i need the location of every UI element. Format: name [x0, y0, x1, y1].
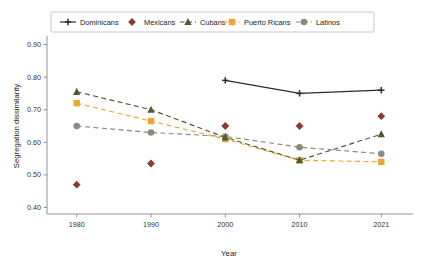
data-point-mexicans [73, 181, 81, 189]
data-point-mexicans [296, 122, 304, 130]
y-tick-label: 0.50 [27, 170, 41, 179]
chart-canvas: 0.400.500.600.700.800.901980199020002010… [0, 0, 425, 263]
data-point-mexicans [147, 160, 155, 168]
data-point-mexicans [377, 112, 385, 120]
legend-label-mexicans: Mexicans [144, 18, 176, 27]
y-tick-label: 0.70 [27, 105, 41, 114]
data-point-cubans [378, 130, 385, 137]
data-point-cubans [147, 106, 154, 113]
legend-label-latinos: Latinos [316, 18, 340, 27]
y-axis-title: Segregation dissimilarity [12, 84, 21, 169]
y-tick-label: 0.60 [27, 138, 41, 147]
data-point-cubans [73, 88, 80, 95]
data-point-puerto-ricans [378, 159, 384, 165]
series-latinos [73, 123, 384, 157]
data-point-latinos [378, 150, 385, 157]
data-point-dominicans [222, 77, 228, 83]
x-tick-label: 2000 [217, 220, 233, 229]
segregation-dissimilarity-chart: 0.400.500.600.700.800.901980199020002010… [0, 0, 425, 263]
data-point-latinos [73, 123, 80, 130]
x-tick-label: 2021 [373, 220, 389, 229]
data-point-latinos [148, 129, 155, 136]
data-point-latinos [296, 144, 303, 151]
data-point-dominicans [296, 90, 302, 96]
series-line-dominicans [225, 80, 381, 93]
y-tick-label: 0.80 [27, 73, 41, 82]
series-cubans [73, 88, 385, 164]
data-point-puerto-ricans [148, 118, 154, 124]
chart-legend: DominicansMexicansCubansPuerto RicansLat… [51, 12, 374, 32]
data-point-puerto-ricans [74, 100, 80, 106]
series-dominicans [222, 77, 384, 96]
series-line-puerto-ricans [77, 103, 382, 162]
x-tick-label: 1980 [69, 220, 85, 229]
y-tick-label: 0.90 [27, 40, 41, 49]
legend-marker-latinos [301, 19, 308, 26]
x-tick-label: 1990 [143, 220, 159, 229]
data-point-mexicans [221, 122, 229, 130]
legend-marker-puerto-ricans [229, 19, 235, 25]
data-point-dominicans [378, 87, 384, 93]
legend-label-cubans: Cubans [200, 18, 226, 27]
series-puerto-ricans [74, 100, 385, 165]
legend-label-puerto-ricans: Puerto Ricans [244, 18, 291, 27]
series-line-latinos [77, 126, 382, 154]
legend-label-dominicans: Dominicans [80, 18, 119, 27]
x-axis-title: Year [221, 249, 237, 258]
y-tick-label: 0.40 [27, 203, 41, 212]
x-tick-label: 2010 [292, 220, 308, 229]
